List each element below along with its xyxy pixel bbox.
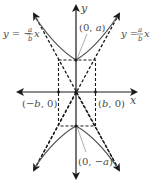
hyperbola-diagram: y x (0, a) (0, −a) (−b, 0) (b, 0) y = − … <box>0 0 157 186</box>
svg-text:y =: y = <box>120 28 138 39</box>
co-vertex-left-dot <box>57 91 60 94</box>
y-axis-label: y <box>80 2 88 15</box>
co-vertex-right-label: (b, 0) <box>98 98 125 109</box>
svg-text:a: a <box>28 26 32 34</box>
svg-text:b: b <box>138 35 143 43</box>
svg-text:x: x <box>34 28 40 39</box>
co-vertex-right-dot <box>94 91 97 94</box>
origin-dot <box>74 90 77 93</box>
vertex-top-label: (0, a) <box>79 22 106 33</box>
svg-text:x: x <box>144 28 150 39</box>
co-vertex-left-label: (−b, 0) <box>22 98 57 109</box>
vertex-bottom-label: (0, −a) <box>78 156 113 167</box>
asymptote-left-equation: y = − a b x <box>2 26 40 43</box>
x-axis-label: x <box>130 94 137 107</box>
svg-text:a: a <box>138 26 142 34</box>
vertex-bottom-leader <box>77 127 86 152</box>
asymptote-right-equation: y = a b x <box>120 26 150 43</box>
svg-text:b: b <box>28 35 33 43</box>
